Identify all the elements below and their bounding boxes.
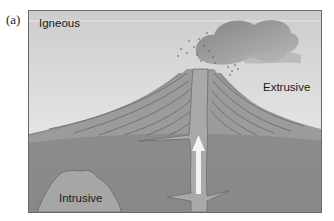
volcano-illustration	[29, 11, 321, 212]
title-igneous: Igneous	[39, 17, 80, 29]
label-intrusive: Intrusive	[59, 192, 102, 204]
label-extrusive: Extrusive	[263, 81, 310, 93]
igneous-diagram: Igneous Extrusive Intrusive	[28, 10, 322, 213]
panel-label: (a)	[6, 12, 20, 28]
